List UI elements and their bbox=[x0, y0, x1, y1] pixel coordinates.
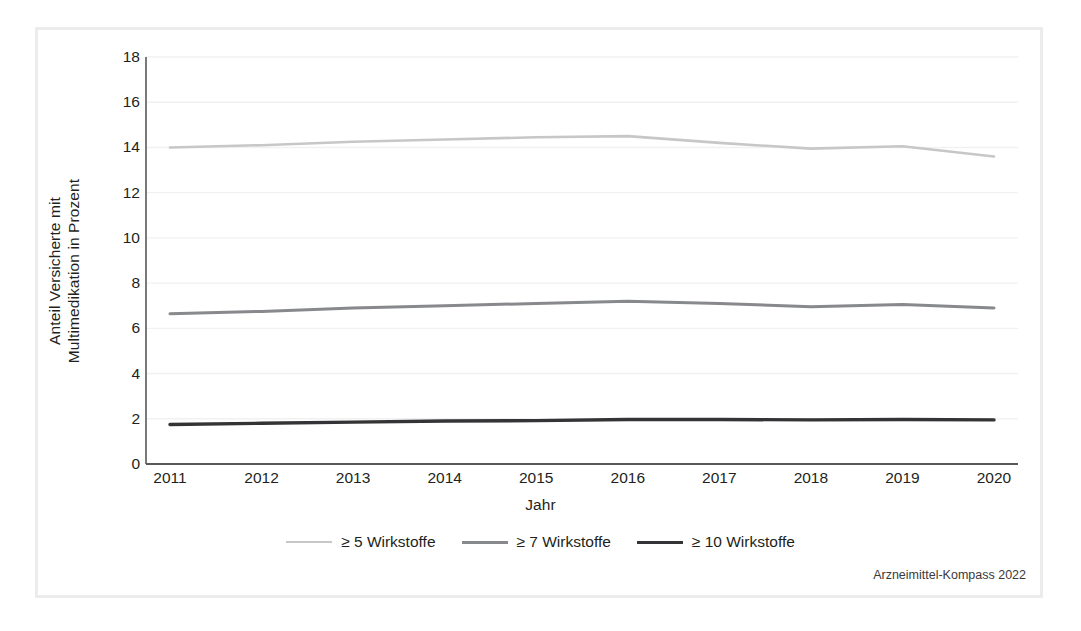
series-line bbox=[170, 136, 994, 156]
x-tick-label: 2019 bbox=[862, 469, 942, 487]
y-tick-label: 6 bbox=[100, 319, 140, 337]
y-tick-label: 18 bbox=[100, 48, 140, 66]
legend-label: ≥ 5 Wirkstoffe bbox=[341, 533, 435, 551]
source-note: Arzneimittel-Kompass 2022 bbox=[873, 568, 1026, 582]
series-line bbox=[170, 301, 994, 313]
y-tick-label: 12 bbox=[100, 184, 140, 202]
x-tick-label: 2012 bbox=[222, 469, 302, 487]
y-tick-label: 10 bbox=[100, 229, 140, 247]
chart-figure: 024681012141618 201120122013201420152016… bbox=[0, 0, 1081, 631]
x-tick-label: 2017 bbox=[679, 469, 759, 487]
legend-item[interactable]: ≥ 7 Wirkstoffe bbox=[462, 533, 611, 551]
legend-line-icon bbox=[286, 541, 332, 543]
series-line bbox=[170, 419, 994, 424]
series-lines bbox=[170, 136, 994, 424]
y-tick-label: 2 bbox=[100, 410, 140, 428]
y-axis-title: Anteil Versicherte mit Multimedikation i… bbox=[45, 141, 83, 401]
x-tick-label: 2013 bbox=[313, 469, 393, 487]
legend-item[interactable]: ≥ 5 Wirkstoffe bbox=[286, 533, 435, 551]
y-tick-label: 4 bbox=[100, 365, 140, 383]
legend-line-icon bbox=[462, 541, 508, 544]
x-tick-label: 2016 bbox=[588, 469, 668, 487]
y-tick-label: 8 bbox=[100, 274, 140, 292]
x-tick-label: 2015 bbox=[496, 469, 576, 487]
y-tick-label: 14 bbox=[100, 138, 140, 156]
gridlines bbox=[146, 57, 1018, 419]
x-tick-label: 2020 bbox=[954, 469, 1034, 487]
y-tick-label: 16 bbox=[100, 93, 140, 111]
x-tick-label: 2018 bbox=[771, 469, 851, 487]
axis-lines bbox=[146, 57, 1018, 464]
x-tick-label: 2011 bbox=[130, 469, 210, 487]
legend-label: ≥ 10 Wirkstoffe bbox=[692, 533, 795, 551]
legend-label: ≥ 7 Wirkstoffe bbox=[517, 533, 611, 551]
chart-legend: ≥ 5 Wirkstoffe≥ 7 Wirkstoffe≥ 10 Wirksto… bbox=[0, 533, 1081, 551]
x-axis-title: Jahr bbox=[0, 496, 1081, 514]
x-tick-label: 2014 bbox=[405, 469, 485, 487]
legend-item[interactable]: ≥ 10 Wirkstoffe bbox=[637, 533, 795, 551]
legend-line-icon bbox=[637, 541, 683, 544]
